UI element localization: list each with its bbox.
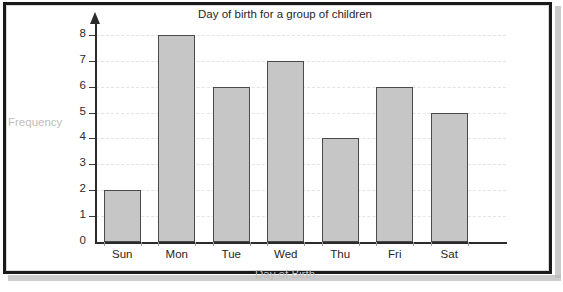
y-tick-label: 7 [66,53,86,65]
x-tick-mark [431,242,432,246]
bar-tue [213,87,250,242]
bar-wed [267,61,304,242]
y-axis-line [95,22,97,243]
x-tick-label-sat: Sat [422,248,476,260]
y-tick-label: 8 [66,27,86,39]
y-tick-label: 2 [66,182,86,194]
y-axis-arrow-icon [90,12,100,24]
x-tick-label-mon: Mon [150,248,204,260]
x-tick-label-tue: Tue [204,248,258,260]
chart-title: Day of birth for a group of children [140,8,430,20]
x-tick-mark [195,242,196,246]
bar-sat [431,113,468,243]
bar-thu [322,138,359,242]
x-tick-mark [468,242,469,246]
x-tick-label-wed: Wed [259,248,313,260]
x-tick-mark [250,242,251,246]
y-axis-label: Frequency [8,116,62,128]
x-tick-label-fri: Fri [368,248,422,260]
x-tick-mark [267,242,268,246]
x-axis-line [95,242,507,244]
x-tick-label-sun: Sun [95,248,149,260]
x-tick-mark [413,242,414,246]
x-tick-mark [322,242,323,246]
x-tick-label-thu: Thu [313,248,367,260]
bar-mon [158,35,195,242]
x-tick-mark [141,242,142,246]
bar-fri [376,87,413,242]
y-tick-label: 3 [66,156,86,168]
x-tick-mark [304,242,305,246]
x-tick-mark [359,242,360,246]
bar-chart-plot: Day of birth for a group of children Fre… [0,0,563,292]
bar-sun [104,190,141,242]
y-tick-label: 6 [66,79,86,91]
x-tick-mark [376,242,377,246]
y-tick-label: 5 [66,105,86,117]
x-tick-mark [213,242,214,246]
y-tick-label: 0 [66,234,86,246]
chart-frame: Day of birth for a group of children Fre… [0,0,563,292]
y-tick-label: 1 [66,208,86,220]
x-tick-mark [104,242,105,246]
y-tick-label: 4 [66,130,86,142]
x-axis-label: Day of Birth [180,268,390,280]
x-tick-mark [158,242,159,246]
